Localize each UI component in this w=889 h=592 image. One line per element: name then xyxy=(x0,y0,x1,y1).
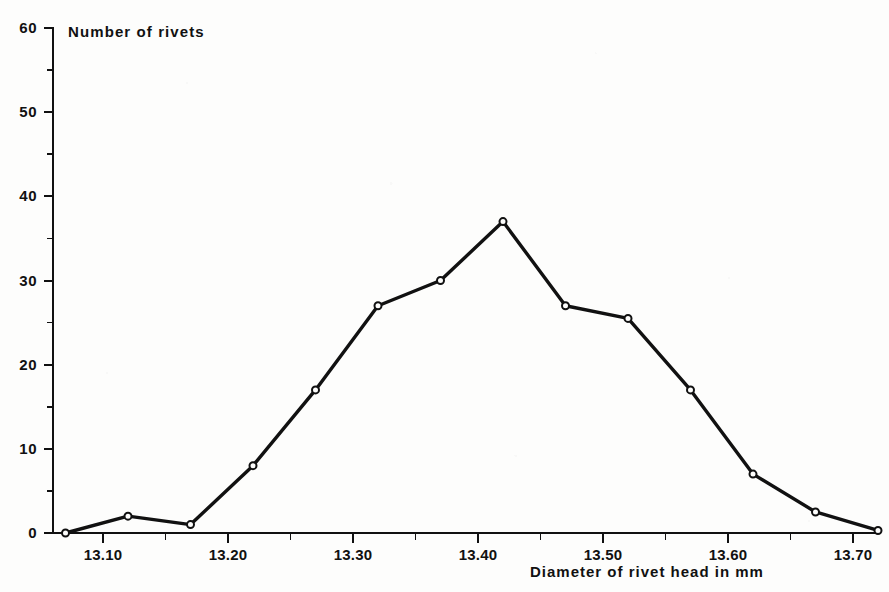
data-point-marker xyxy=(562,302,569,309)
x-axis-tick-label: 13.30 xyxy=(318,546,388,563)
y-axis-tick-label: 50 xyxy=(3,103,37,120)
data-point-marker xyxy=(187,521,194,528)
data-point-marker xyxy=(750,471,757,478)
y-axis-tick-label: 10 xyxy=(3,440,37,457)
data-point-marker xyxy=(62,530,69,537)
data-point-marker xyxy=(375,302,382,309)
x-axis-tick-label: 13.70 xyxy=(818,546,888,563)
data-point-marker xyxy=(250,462,257,469)
data-point-marker xyxy=(625,315,632,322)
data-series-group xyxy=(66,222,879,533)
y-axis-tick-label: 30 xyxy=(3,272,37,289)
data-point-marker xyxy=(687,386,694,393)
y-axis-tick-label: 60 xyxy=(3,19,37,36)
x-axis-tick-label: 13.60 xyxy=(693,546,763,563)
x-axis-tick-label: 13.10 xyxy=(68,546,138,563)
data-point-marker xyxy=(500,218,507,225)
axis-lines-group xyxy=(53,27,878,533)
data-markers-group xyxy=(62,218,882,536)
line-chart-figure: 0102030405060 13.1013.2013.3013.4013.501… xyxy=(0,0,889,592)
x-axis-tick-label: 13.50 xyxy=(568,546,638,563)
data-point-marker xyxy=(125,513,132,520)
data-line xyxy=(66,222,879,533)
data-point-marker xyxy=(312,386,319,393)
y-axis-tick-label: 40 xyxy=(3,187,37,204)
data-point-marker xyxy=(437,277,444,284)
data-point-marker xyxy=(875,527,882,534)
x-axis-tick-label: 13.20 xyxy=(193,546,263,563)
chart-screenshot: 0102030405060 13.1013.2013.3013.4013.501… xyxy=(0,0,889,592)
chart-plot-area xyxy=(0,0,889,592)
y-axis-tick-label: 20 xyxy=(3,356,37,373)
data-point-marker xyxy=(812,508,819,515)
chart-title: Number of rivets xyxy=(68,23,205,40)
y-axis-tick-label: 0 xyxy=(3,524,37,541)
x-axis-tick-label: 13.40 xyxy=(443,546,513,563)
x-axis-title: Diameter of rivet head in mm xyxy=(530,563,764,580)
axis-ticks-group xyxy=(44,28,853,543)
